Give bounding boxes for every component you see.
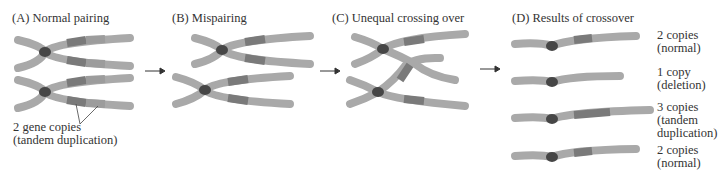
panel-b-chromosome-pair-top [195, 36, 310, 64]
arrow-a-to-b-icon [145, 68, 165, 74]
arrow-b-to-c-icon [320, 68, 340, 74]
result-3: 3 copies (tandem duplication) [657, 101, 717, 140]
panel-b-chromosome-pair-bottom [176, 76, 290, 104]
annotation-gene-copies: 2 gene copies (tandem duplication) [13, 121, 117, 147]
result-2: 1 copy (deletion) [657, 66, 706, 92]
panel-c-crossover [350, 34, 465, 106]
panel-a-chromosome-pair-top [18, 38, 130, 68]
result-2-line2: (deletion) [657, 79, 706, 92]
result-3-line3: duplication) [657, 127, 717, 140]
result-1-line2: (normal) [657, 42, 701, 55]
panel-a-chromosome-pair-bottom [18, 78, 130, 108]
result-4: 2 copies (normal) [657, 144, 701, 170]
result-4-line2: (normal) [657, 157, 701, 170]
arrow-c-to-d-icon [480, 66, 500, 72]
annotation-line2: (tandem duplication) [13, 134, 117, 147]
panel-d-results [515, 36, 650, 157]
result-1: 2 copies (normal) [657, 29, 701, 55]
